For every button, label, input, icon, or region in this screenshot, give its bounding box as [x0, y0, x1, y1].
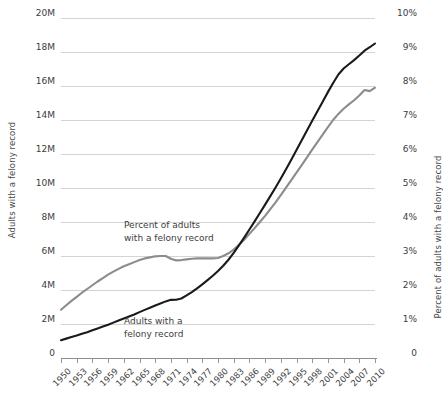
series-line-percent-of-adults: [61, 88, 375, 310]
percent-annotation: Percent of adults with a felony record: [124, 219, 214, 245]
percent-annotation-line-1: Percent of adults: [124, 219, 214, 232]
count-annotation: Adults with a felony record: [124, 315, 183, 341]
count-annotation-line-2: felony record: [124, 328, 183, 341]
count-annotation-line-1: Adults with a: [124, 315, 183, 328]
series-line-adults-count: [61, 44, 375, 341]
percent-annotation-line-2: with a felony record: [124, 232, 214, 245]
